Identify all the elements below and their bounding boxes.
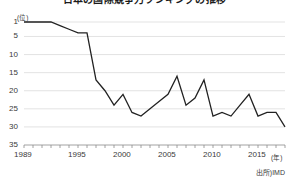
data-series-line [24,22,285,127]
x-tick-label: 2005 [158,150,176,159]
y-tick-label: 15 [0,68,18,77]
x-tick-label: 2010 [203,150,221,159]
gridlines-group [24,22,285,145]
x-tick-label: 2000 [113,150,131,159]
y-axis-unit-label: (位) [17,12,28,22]
x-tick-marks-group [24,145,285,148]
y-tick-label: 35 [0,140,18,149]
x-tick-label: 1995 [68,150,86,159]
y-tick-label: 20 [0,86,18,95]
x-axis-unit-label: (年) [271,152,282,162]
competitiveness-rank-chart: 日本の国際競争力ランキングの推移 (位) 15101520253035 1989… [0,0,289,179]
y-tick-label: 30 [0,122,18,131]
x-tick-label: 2015 [248,150,266,159]
x-tick-label: 1989 [14,150,32,159]
y-tick-label: 10 [0,50,18,59]
y-tick-label: 5 [0,31,18,40]
y-tick-label: 25 [0,104,18,113]
plot-area [0,0,289,179]
y-tick-label: 1 [0,17,18,26]
source-note: 出所)IMD [256,167,285,177]
